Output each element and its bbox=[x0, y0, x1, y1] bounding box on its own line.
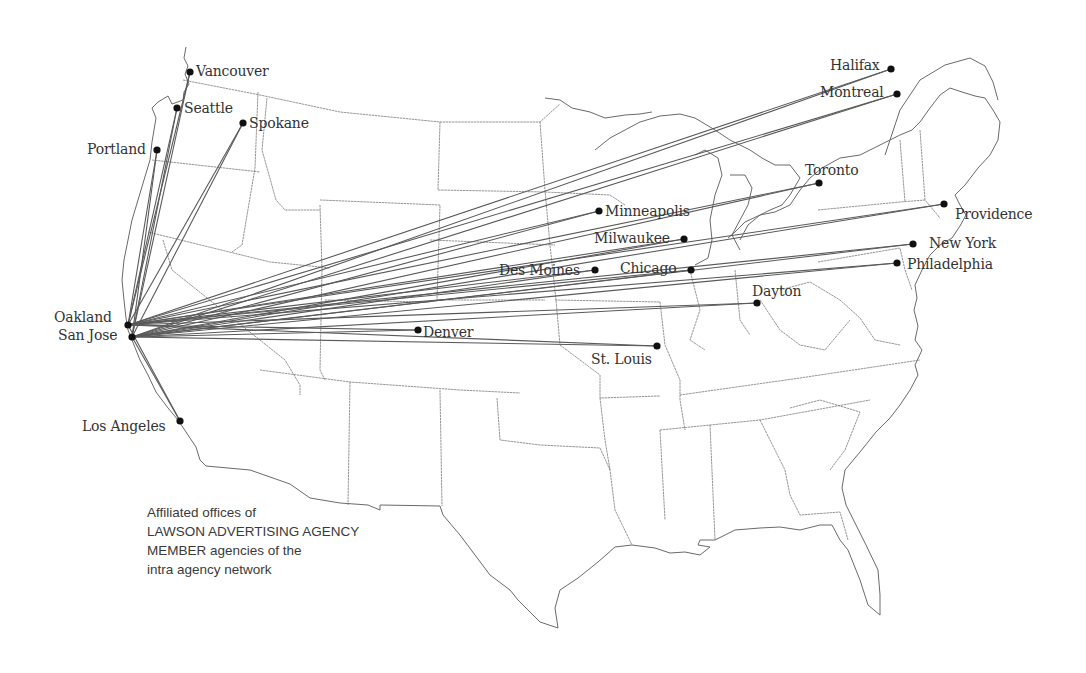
city-label: Dayton bbox=[752, 283, 801, 299]
city-marker-icon bbox=[753, 299, 760, 306]
caption-line-1: Affiliated offices of bbox=[147, 503, 359, 522]
route-line bbox=[132, 337, 657, 346]
city-label: Spokane bbox=[249, 115, 309, 131]
route-line bbox=[128, 270, 691, 325]
city-marker-icon bbox=[591, 266, 598, 273]
caption-line-3: MEMBER agencies of the bbox=[147, 541, 359, 560]
caption-line-2: LAWSON ADVERTISING AGENCY bbox=[147, 522, 359, 541]
city-label: San Jose bbox=[58, 327, 117, 343]
route-line bbox=[132, 337, 180, 421]
city-label: St. Louis bbox=[591, 351, 652, 367]
city-marker-icon bbox=[893, 90, 900, 97]
city-label: New York bbox=[929, 235, 996, 251]
state-borders bbox=[148, 92, 940, 545]
city-label: Portland bbox=[87, 141, 146, 157]
city-label: Chicago bbox=[620, 260, 676, 276]
city-marker-icon bbox=[186, 68, 193, 75]
city-label: Toronto bbox=[805, 162, 858, 178]
city-label: Denver bbox=[423, 324, 473, 340]
city-label: Providence bbox=[955, 206, 1032, 222]
city-marker-icon bbox=[124, 321, 131, 328]
city-label: Oakland bbox=[54, 309, 112, 325]
city-label: Halifax bbox=[830, 57, 880, 73]
city-label: Vancouver bbox=[196, 63, 269, 79]
city-marker-icon bbox=[176, 417, 183, 424]
city-marker-icon bbox=[153, 146, 160, 153]
city-label: Philadelphia bbox=[907, 256, 993, 272]
city-marker-icon bbox=[909, 240, 916, 247]
city-marker-icon bbox=[940, 200, 947, 207]
city-marker-icon bbox=[815, 179, 822, 186]
city-label: Minneapolis bbox=[605, 203, 690, 219]
city-marker-icon bbox=[128, 333, 135, 340]
city-label: Montreal bbox=[820, 84, 884, 100]
city-label: Seattle bbox=[184, 100, 233, 116]
city-label: Milwaukee bbox=[594, 230, 670, 246]
city-label: Los Angeles bbox=[82, 418, 165, 434]
city-dots bbox=[124, 65, 947, 424]
city-marker-icon bbox=[893, 259, 900, 266]
city-marker-icon bbox=[239, 119, 246, 126]
map-caption: Affiliated offices of LAWSON ADVERTISING… bbox=[147, 503, 359, 579]
city-marker-icon bbox=[414, 326, 421, 333]
city-marker-icon bbox=[653, 342, 660, 349]
city-marker-icon bbox=[887, 65, 894, 72]
city-marker-icon bbox=[680, 235, 687, 242]
city-marker-icon bbox=[173, 104, 180, 111]
caption-line-4: intra agency network bbox=[147, 560, 359, 579]
city-label: Des Moines bbox=[499, 262, 580, 278]
city-marker-icon bbox=[687, 266, 694, 273]
route-line bbox=[132, 72, 190, 337]
route-line bbox=[128, 239, 684, 325]
city-marker-icon bbox=[595, 207, 602, 214]
